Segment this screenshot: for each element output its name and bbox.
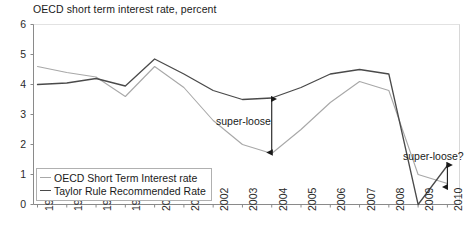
x-axis-tick-2008: 2008 — [394, 187, 406, 210]
legend-label-oecd: OECD Short Term Interest rate — [54, 172, 197, 184]
x-axis-tick-2006: 2006 — [335, 187, 347, 210]
x-axis-tick-2007: 2007 — [365, 187, 377, 210]
x-axis-tick-2005: 2005 — [306, 187, 318, 210]
legend-label-taylor: Taylor Rule Recommended Rate — [54, 185, 206, 197]
legend-item-taylor: Taylor Rule Recommended Rate — [40, 184, 206, 197]
y-axis-tick-2: 2 — [8, 138, 26, 150]
x-axis-tick-2002: 2002 — [218, 187, 230, 210]
chart-legend: OECD Short Term Interest rate Taylor Rul… — [36, 168, 212, 201]
x-axis-tick-2010: 2010 — [452, 187, 464, 210]
legend-swatch-oecd — [40, 177, 51, 178]
legend-item-oecd: OECD Short Term Interest rate — [40, 171, 206, 184]
x-axis-tick-2009: 2009 — [423, 187, 435, 210]
y-axis-tick-6: 6 — [8, 18, 26, 30]
y-axis-tick-0: 0 — [8, 198, 26, 210]
y-axis-tick-5: 5 — [8, 48, 26, 60]
chart-container: OECD short term interest rate, percent 6… — [0, 0, 473, 248]
y-axis-tick-1: 1 — [8, 168, 26, 180]
y-axis-tick-4: 4 — [8, 78, 26, 90]
y-axis-tick-3: 3 — [8, 108, 26, 120]
annotation-arrows — [272, 99, 448, 187]
x-axis-tick-2003: 2003 — [247, 187, 259, 210]
annotation-super-loose-question: super-loose? — [403, 150, 464, 162]
x-axis-tick-2004: 2004 — [277, 187, 289, 210]
annotation-super-loose: super-loose — [216, 115, 271, 127]
legend-swatch-taylor — [40, 190, 51, 191]
